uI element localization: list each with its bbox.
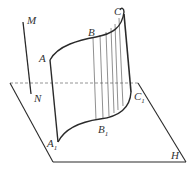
label-b1: B1 bbox=[98, 123, 108, 138]
generatrix-cc1 bbox=[124, 14, 131, 92]
label-a1: A1 bbox=[46, 137, 57, 152]
curve-a1b1c1 bbox=[58, 92, 131, 142]
label-n: N bbox=[33, 92, 42, 104]
label-m: M bbox=[26, 14, 37, 26]
plane-left-edge bbox=[10, 83, 53, 162]
label-a: A bbox=[38, 52, 46, 64]
curve-abc bbox=[50, 8, 124, 60]
label-c: C bbox=[114, 5, 122, 17]
label-h: H bbox=[170, 149, 180, 161]
generatrix-aa1 bbox=[50, 60, 58, 142]
geometry-diagram: M N A B C A1 B1 C1 H bbox=[0, 0, 192, 173]
label-b: B bbox=[88, 26, 95, 38]
